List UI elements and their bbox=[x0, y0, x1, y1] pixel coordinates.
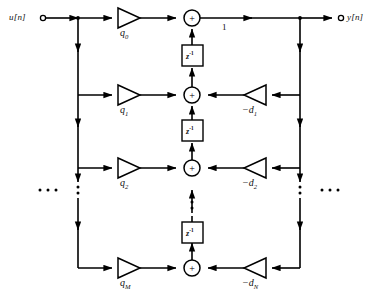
junction-output-split bbox=[298, 16, 302, 20]
delay-label-3-exp: -1 bbox=[189, 227, 193, 233]
left-row-dot-3 bbox=[55, 189, 58, 192]
ellipsis-dots-group bbox=[39, 186, 340, 210]
adder-plus-1: + bbox=[189, 90, 195, 101]
gain-triangle-d1 bbox=[244, 85, 266, 105]
gain-triangle-q0 bbox=[118, 8, 140, 28]
gain-triangle-qM bbox=[118, 258, 140, 278]
input-terminal-node bbox=[40, 15, 45, 20]
gain-triangle-dN bbox=[244, 258, 266, 278]
gain-label-q1-sub: 1 bbox=[125, 110, 128, 117]
gain-label-dN-base: −d bbox=[242, 277, 254, 288]
input-label: u[n] bbox=[9, 12, 26, 22]
output-gain-label: 1 bbox=[222, 22, 227, 32]
gain-triangle-q1 bbox=[118, 85, 140, 105]
left-row-dot-1 bbox=[39, 189, 42, 192]
gain-label-d1: −d1 bbox=[242, 104, 257, 117]
right-bus-dot-1 bbox=[299, 186, 302, 189]
gain-label-q2-sub: 2 bbox=[125, 183, 128, 190]
delay-label-3: z-1 bbox=[186, 227, 194, 238]
left-bus-dot-1 bbox=[77, 186, 80, 189]
output-label: y[n] bbox=[347, 12, 363, 22]
adder-plus-3: + bbox=[189, 263, 195, 274]
gain-label-d1-base: −d bbox=[242, 104, 254, 115]
right-row-dot-1 bbox=[321, 189, 324, 192]
gain-triangle-q2 bbox=[118, 158, 140, 178]
gain-label-q1: q1 bbox=[120, 104, 128, 117]
gain-label-d2-base: −d bbox=[242, 177, 254, 188]
gain-label-q2: q2 bbox=[120, 177, 128, 190]
gain-label-q0: q0 bbox=[120, 27, 128, 40]
delay-label-1: z-1 bbox=[186, 50, 194, 61]
diagram-canvas: + + + + bbox=[0, 0, 379, 300]
gain-label-dN: −dN bbox=[242, 277, 258, 290]
signal-flow-diagram: + + + + u[n] y[n] 1 q0 q1 q2 qM −d1 −d2 … bbox=[0, 0, 379, 300]
center-chain-dot-1 bbox=[191, 195, 194, 198]
gain-label-d1-sub: 1 bbox=[254, 110, 257, 117]
center-chain-dot-3 bbox=[191, 207, 194, 210]
right-row-dot-2 bbox=[329, 189, 332, 192]
adder-plus-2: + bbox=[189, 163, 195, 174]
delay-label-2: z-1 bbox=[186, 125, 194, 136]
delay-label-1-exp: -1 bbox=[189, 50, 193, 56]
gain-label-d2: −d2 bbox=[242, 177, 257, 190]
right-bus-dot-2 bbox=[299, 192, 302, 195]
left-bus-dot-2 bbox=[77, 192, 80, 195]
gain-triangle-d2 bbox=[244, 158, 266, 178]
gain-label-q0-sub: 0 bbox=[125, 33, 128, 40]
gain-label-qM: qM bbox=[120, 277, 131, 290]
output-terminal-node bbox=[338, 15, 343, 20]
adder-plus-0: + bbox=[189, 13, 195, 24]
right-row-dot-3 bbox=[337, 189, 340, 192]
left-row-dot-2 bbox=[47, 189, 50, 192]
center-chain-dot-2 bbox=[191, 201, 194, 204]
gain-label-qM-sub: M bbox=[125, 283, 131, 290]
gain-label-d2-sub: 2 bbox=[254, 183, 257, 190]
junction-input-split bbox=[76, 16, 80, 20]
gain-label-dN-sub: N bbox=[254, 283, 258, 290]
delay-label-2-exp: -1 bbox=[189, 125, 193, 131]
